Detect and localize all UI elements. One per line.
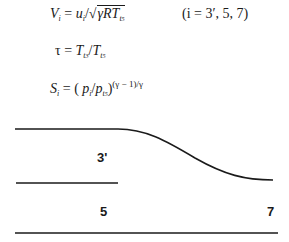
duct-diagram xyxy=(0,0,289,242)
upper-wall-contour xyxy=(15,129,273,180)
station-label-5: 5 xyxy=(100,205,107,218)
station-label-7: 7 xyxy=(267,205,274,218)
station-label-3prime: 3' xyxy=(97,151,107,164)
